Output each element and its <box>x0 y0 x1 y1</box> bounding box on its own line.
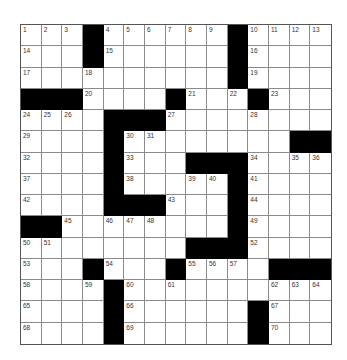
grid-cell[interactable]: 21 <box>186 89 207 110</box>
grid-cell[interactable]: 25 <box>42 110 63 131</box>
grid-cell[interactable]: 69 <box>124 323 145 344</box>
grid-cell[interactable] <box>186 68 207 89</box>
grid-cell[interactable]: 20 <box>83 89 104 110</box>
grid-cell[interactable] <box>124 259 145 280</box>
grid-cell[interactable] <box>310 323 331 344</box>
grid-cell[interactable] <box>228 323 249 344</box>
grid-cell[interactable] <box>166 323 187 344</box>
grid-cell[interactable] <box>42 174 63 195</box>
grid-cell[interactable]: 18 <box>83 68 104 89</box>
grid-cell[interactable] <box>310 174 331 195</box>
grid-cell[interactable]: 50 <box>21 238 42 259</box>
grid-cell[interactable]: 38 <box>124 174 145 195</box>
grid-cell[interactable]: 41 <box>248 174 269 195</box>
grid-cell[interactable] <box>269 216 290 237</box>
grid-cell[interactable] <box>186 323 207 344</box>
grid-cell[interactable] <box>290 174 311 195</box>
grid-cell[interactable] <box>166 131 187 152</box>
grid-cell[interactable] <box>145 280 166 301</box>
grid-cell[interactable] <box>290 238 311 259</box>
grid-cell[interactable] <box>62 46 83 67</box>
grid-cell[interactable] <box>42 301 63 322</box>
grid-cell[interactable] <box>207 280 228 301</box>
grid-cell[interactable] <box>83 110 104 131</box>
grid-cell[interactable]: 14 <box>21 46 42 67</box>
grid-cell[interactable]: 28 <box>248 110 269 131</box>
grid-cell[interactable]: 39 <box>186 174 207 195</box>
grid-cell[interactable] <box>207 323 228 344</box>
grid-cell[interactable]: 59 <box>83 280 104 301</box>
grid-cell[interactable]: 66 <box>124 301 145 322</box>
grid-cell[interactable]: 56 <box>207 259 228 280</box>
grid-cell[interactable]: 2 <box>42 25 63 46</box>
grid-cell[interactable]: 6 <box>145 25 166 46</box>
grid-cell[interactable]: 10 <box>248 25 269 46</box>
grid-cell[interactable]: 42 <box>21 195 42 216</box>
grid-cell[interactable] <box>166 216 187 237</box>
grid-cell[interactable]: 33 <box>124 153 145 174</box>
grid-cell[interactable]: 16 <box>248 46 269 67</box>
grid-cell[interactable] <box>186 280 207 301</box>
grid-cell[interactable]: 17 <box>21 68 42 89</box>
grid-cell[interactable]: 29 <box>21 131 42 152</box>
grid-cell[interactable] <box>166 68 187 89</box>
grid-cell[interactable] <box>269 195 290 216</box>
grid-cell[interactable] <box>269 131 290 152</box>
grid-cell[interactable] <box>248 259 269 280</box>
grid-cell[interactable] <box>145 238 166 259</box>
grid-cell[interactable]: 55 <box>186 259 207 280</box>
grid-cell[interactable]: 35 <box>290 153 311 174</box>
grid-cell[interactable] <box>186 195 207 216</box>
grid-cell[interactable] <box>62 153 83 174</box>
grid-cell[interactable]: 30 <box>124 131 145 152</box>
grid-cell[interactable] <box>290 195 311 216</box>
grid-cell[interactable] <box>42 323 63 344</box>
grid-cell[interactable] <box>269 153 290 174</box>
grid-cell[interactable]: 52 <box>248 238 269 259</box>
grid-cell[interactable] <box>62 301 83 322</box>
grid-cell[interactable] <box>42 153 63 174</box>
grid-cell[interactable] <box>124 238 145 259</box>
grid-cell[interactable] <box>290 216 311 237</box>
grid-cell[interactable]: 51 <box>42 238 63 259</box>
grid-cell[interactable] <box>269 46 290 67</box>
grid-cell[interactable] <box>290 68 311 89</box>
grid-cell[interactable]: 15 <box>104 46 125 67</box>
grid-cell[interactable]: 36 <box>310 153 331 174</box>
grid-cell[interactable] <box>310 46 331 67</box>
grid-cell[interactable] <box>166 174 187 195</box>
grid-cell[interactable] <box>269 68 290 89</box>
grid-cell[interactable] <box>207 216 228 237</box>
grid-cell[interactable] <box>104 68 125 89</box>
grid-cell[interactable]: 63 <box>290 280 311 301</box>
grid-cell[interactable]: 45 <box>62 216 83 237</box>
grid-cell[interactable] <box>269 238 290 259</box>
grid-cell[interactable] <box>166 46 187 67</box>
grid-cell[interactable]: 37 <box>21 174 42 195</box>
grid-cell[interactable] <box>145 323 166 344</box>
grid-cell[interactable] <box>290 89 311 110</box>
grid-cell[interactable] <box>62 280 83 301</box>
grid-cell[interactable] <box>62 323 83 344</box>
grid-cell[interactable] <box>83 216 104 237</box>
grid-cell[interactable] <box>42 259 63 280</box>
grid-cell[interactable] <box>83 131 104 152</box>
grid-cell[interactable] <box>145 68 166 89</box>
grid-cell[interactable] <box>290 301 311 322</box>
grid-cell[interactable] <box>207 301 228 322</box>
grid-cell[interactable] <box>290 46 311 67</box>
grid-cell[interactable] <box>62 259 83 280</box>
grid-cell[interactable]: 70 <box>269 323 290 344</box>
grid-cell[interactable] <box>186 216 207 237</box>
grid-cell[interactable] <box>228 110 249 131</box>
grid-cell[interactable]: 31 <box>145 131 166 152</box>
grid-cell[interactable] <box>124 46 145 67</box>
grid-cell[interactable]: 64 <box>310 280 331 301</box>
grid-cell[interactable] <box>228 301 249 322</box>
grid-cell[interactable]: 22 <box>228 89 249 110</box>
grid-cell[interactable]: 32 <box>21 153 42 174</box>
grid-cell[interactable]: 62 <box>269 280 290 301</box>
grid-cell[interactable] <box>228 280 249 301</box>
grid-cell[interactable] <box>310 68 331 89</box>
grid-cell[interactable]: 61 <box>166 280 187 301</box>
